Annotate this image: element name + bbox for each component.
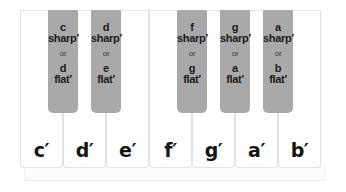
black-key-or: or [48,50,78,58]
black-key-accidental: flat′ [177,74,207,85]
black-key-accidental: flat′ [263,74,293,85]
piano-keyboard: c′ d′ e′ f′ g′ a′ b′ c sharp′ or d flat′… [20,10,322,170]
black-key-f-sharp: f sharp′ or g flat′ [177,10,207,113]
black-key-or: or [177,50,207,58]
white-key-label: c′ [21,139,62,161]
black-key-a-sharp: a sharp′ or b flat′ [263,10,293,113]
white-key-label: g′ [193,139,234,161]
black-key-accidental: sharp′ [48,33,78,44]
black-key-accidental: flat′ [91,74,121,85]
black-key-d-sharp: d sharp′ or e flat′ [91,10,121,113]
white-key-label: e′ [107,139,148,161]
black-key-or: or [91,50,121,58]
black-key-or: or [220,50,250,58]
black-key-c-sharp: c sharp′ or d flat′ [48,10,78,113]
black-key-accidental: flat′ [48,74,78,85]
white-key-label: f′ [150,139,191,161]
black-key-accidental: flat′ [220,74,250,85]
white-key-label: b′ [279,139,320,161]
black-key-accidental: sharp′ [177,33,207,44]
white-key-label: a′ [236,139,277,161]
black-key-accidental: sharp′ [91,33,121,44]
white-key-label: d′ [64,139,105,161]
black-key-accidental: sharp′ [220,33,250,44]
black-key-accidental: sharp′ [263,33,293,44]
black-key-g-sharp: g sharp′ or a flat′ [220,10,250,113]
black-key-or: or [263,50,293,58]
